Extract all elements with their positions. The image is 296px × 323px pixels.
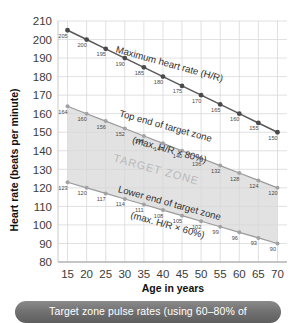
point-label: 190 [116,61,125,67]
y-tick-label: 190 [33,52,52,64]
point-label: 185 [135,70,144,76]
point-label: 120 [77,190,86,196]
y-tick-label: 160 [33,108,52,120]
y-tick-label: 100 [33,219,52,231]
point-label: 175 [173,88,182,94]
x-tick-label: 25 [99,268,112,280]
figure-caption: Target zone pulse rates (using 60–80% of [15,301,281,323]
y-tick-label: 210 [33,15,52,27]
x-tick-label: 55 [214,268,227,280]
y-tick-label: 130 [33,164,52,176]
point-label: 99 [213,229,219,235]
point-label: 160 [230,116,239,122]
y-axis-title: Heart rate (beats per minute) [8,89,20,232]
point-label: 180 [154,79,163,85]
point-label: 132 [211,168,220,174]
point-label: 165 [211,107,220,113]
x-tick-label: 40 [157,268,170,280]
x-tick-label: 65 [252,268,265,280]
x-tick-label: 15 [61,268,74,280]
y-tick-label: 90 [39,238,52,250]
point-label: 124 [249,183,258,189]
point-label: 90 [270,246,276,252]
x-tick-label: 45 [176,268,189,280]
point-label: 195 [97,51,106,57]
y-tick-label: 80 [39,256,52,268]
x-tick-label: 20 [80,268,93,280]
point-label: 150 [268,135,277,141]
point-label: 93 [251,240,257,246]
point-label: 117 [97,196,106,202]
x-tick-label: 30 [118,268,131,280]
x-tick-label: 35 [137,268,150,280]
y-tick-label: 180 [33,71,52,83]
point-label: 114 [116,201,125,207]
annotation-max-heart-rate: Maximum heart rate (H/R) [115,44,225,84]
y-tick-label: 110 [34,201,52,213]
point-label: 123 [58,185,67,191]
point-label: 160 [77,116,86,122]
point-label: 96 [232,235,238,241]
point-label: 200 [77,42,86,48]
y-tick-label: 150 [33,126,52,138]
point-label: 152 [116,131,125,137]
y-tick-label: 140 [33,145,52,157]
point-label: 120 [268,190,277,196]
point-label: 170 [192,98,201,104]
point-label: 155 [249,125,258,131]
y-tick-label: 170 [33,89,52,101]
x-axis-title: Age in years [142,282,205,294]
point-label: 205 [58,33,67,39]
point-label: 164 [58,109,67,115]
point-label: 128 [230,176,239,182]
x-tick-label: 60 [233,268,246,280]
x-tick-label: 70 [271,268,284,280]
y-tick-label: 200 [33,34,52,46]
y-tick-label: 120 [33,182,52,194]
x-tick-label: 50 [195,268,208,280]
point-label: 156 [97,124,106,130]
